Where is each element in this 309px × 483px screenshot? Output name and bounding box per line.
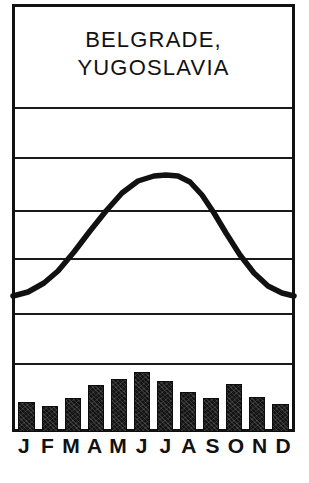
month-axis-labels: JFMAMJJASOND <box>12 433 295 463</box>
month-label-j-6: J <box>154 433 178 459</box>
month-label-d-11: D <box>271 433 295 459</box>
precipitation-bar <box>203 398 219 432</box>
month-label-j-0: J <box>12 433 36 459</box>
month-label-a-7: A <box>177 433 201 459</box>
precipitation-bar <box>42 406 58 432</box>
precipitation-bar <box>65 398 81 432</box>
month-label-j-5: J <box>130 433 154 459</box>
precipitation-bar <box>226 384 242 432</box>
precipitation-bar <box>272 404 288 432</box>
precipitation-bar <box>180 392 196 432</box>
precipitation-bar <box>134 372 150 432</box>
month-label-f-1: F <box>36 433 60 459</box>
precipitation-bars-layer <box>15 4 292 432</box>
precipitation-bar <box>88 385 104 432</box>
climograph-figure: BELGRADE, YUGOSLAVIA JFMAMJJASOND <box>0 0 309 483</box>
month-label-o-9: O <box>224 433 248 459</box>
month-label-n-10: N <box>248 433 272 459</box>
month-label-a-3: A <box>83 433 107 459</box>
month-label-m-2: M <box>59 433 83 459</box>
precipitation-bar <box>18 402 34 432</box>
precipitation-bar <box>157 381 173 432</box>
month-label-m-4: M <box>106 433 130 459</box>
month-label-s-8: S <box>201 433 225 459</box>
precipitation-bar <box>111 379 127 432</box>
precipitation-bar <box>249 397 265 432</box>
